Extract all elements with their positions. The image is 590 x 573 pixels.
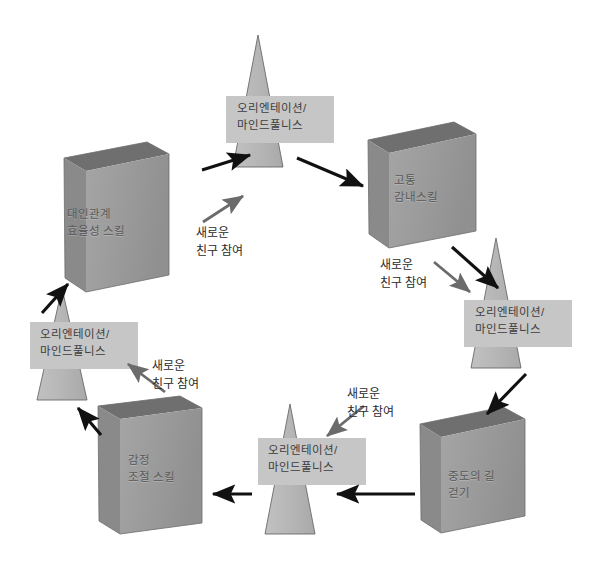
- arrow-pyramid-right-to-middle-path: [487, 374, 526, 414]
- pyramid-left-shape: [30, 288, 138, 400]
- pyramid-top-shape: [226, 35, 334, 167]
- pyramid-bottom-shape: [258, 404, 366, 534]
- box-interpersonal-shape: [64, 142, 169, 292]
- box-emotion-regulation-shape: [98, 396, 202, 534]
- diagram-canvas: [0, 0, 590, 573]
- arrow-join-top: [203, 196, 243, 222]
- pyramid-right-shape: [464, 238, 572, 368]
- arrow-join-right: [434, 262, 470, 292]
- arrow-join-left: [128, 364, 165, 392]
- arrow-emotion-to-pyramid-left: [78, 408, 101, 435]
- arrow-join-bottom: [327, 406, 364, 436]
- arrow-top-to-distress: [297, 158, 363, 186]
- cycle-diagram: 오리엔테이션/ 마인드풀니스 고통 감내스킬 오리엔테이션/ 마인드풀니스 중도…: [0, 0, 590, 573]
- box-distress-tolerance-shape: [368, 122, 476, 248]
- box-middle-path-shape: [420, 407, 525, 533]
